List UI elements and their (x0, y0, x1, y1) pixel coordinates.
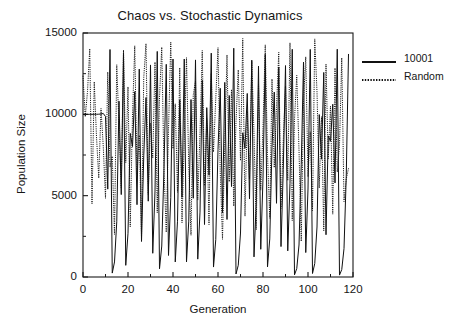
y-tick-label: 15000 (31, 26, 77, 38)
y-tick-label: 10000 (31, 107, 77, 119)
legend-item-series-2[interactable]: Random (362, 68, 444, 84)
y-tick-label: 0 (31, 270, 77, 282)
y-tick-label: 5000 (31, 189, 77, 201)
x-tick-label: 0 (63, 283, 103, 295)
legend-swatch-dotted-line (362, 71, 396, 81)
chart-legend: 10001 Random (362, 50, 444, 86)
chart-figure: Chaos vs. Stochastic Dynamics Population… (0, 0, 459, 330)
legend-item-series-1[interactable]: 10001 (362, 50, 444, 66)
legend-label-series-1: 10001 (404, 52, 433, 64)
x-tick-label: 80 (243, 283, 283, 295)
x-tick-label: 100 (288, 283, 328, 295)
x-tick-label: 40 (153, 283, 193, 295)
legend-label-series-2: Random (404, 70, 444, 82)
x-tick-label: 60 (198, 283, 238, 295)
x-tick-label: 20 (108, 283, 148, 295)
x-tick-label: 120 (333, 283, 373, 295)
legend-swatch-solid-line (362, 53, 396, 63)
